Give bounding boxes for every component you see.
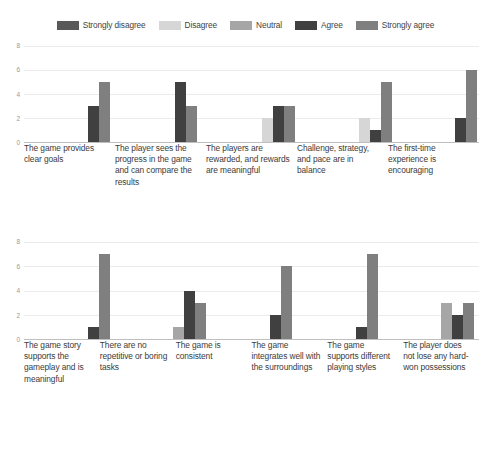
bar-group [111,46,198,142]
legend-item-label: Agree [321,20,343,30]
x-axis-category-label: The player sees the progress in the game… [115,143,206,188]
bar-group [206,242,292,339]
bar-group [24,46,111,142]
bar-groups [24,242,479,339]
bar-group [392,46,479,142]
bar[interactable] [370,130,381,142]
bar[interactable] [186,106,197,142]
y-axis-tick-label: 0 [16,140,20,147]
x-axis-category-label: The game story supports the gameplay and… [24,340,100,385]
chart-2-x-axis-labels: The game story supports the gameplay and… [2,340,479,385]
legend-item-disagree: Disagree [159,20,217,30]
bar-group [378,242,475,339]
legend-swatch-icon [159,21,181,30]
bar[interactable] [195,303,206,339]
x-axis-spacer [2,143,24,188]
bar-chart-1: 02468 The game provides clear goalsThe p… [0,46,491,242]
bar[interactable] [452,315,463,339]
x-axis-category-label: The game is consistent [176,340,252,385]
bar[interactable] [273,106,284,142]
y-axis-tick-label: 4 [16,288,20,295]
bar-group [198,46,295,142]
bar[interactable] [88,106,99,142]
legend-item-neutral: Neutral [230,20,282,30]
x-axis-category-label: The first-time experience is encouraging [388,143,479,188]
legend-item-agree: Agree [295,20,343,30]
bar[interactable] [455,118,466,142]
bar-group [24,242,110,339]
chart-1-plot-area: 02468 [2,46,479,143]
y-axis-tick-label: 8 [16,239,20,246]
bar[interactable] [184,291,195,340]
bar[interactable] [270,315,281,339]
legend-swatch-icon [57,21,79,30]
y-axis-tick-label: 2 [16,312,20,319]
legend-item-label: Strongly agree [382,20,435,30]
bar[interactable] [99,254,110,339]
chart-1-plot [24,46,479,143]
chart-1-y-axis: 02468 [2,46,24,143]
x-axis-category-label: The players are rewarded, and rewards ar… [206,143,297,188]
bar-groups [24,46,479,142]
bar-chart-2: 02468 The game story supports the gamepl… [0,242,491,442]
chart-2-plot-area: 02468 [2,242,479,340]
chart-2-x-labels-inner: The game story supports the gameplay and… [24,340,479,385]
bar[interactable] [441,303,452,339]
chart-2-y-axis: 02468 [2,242,24,340]
x-axis-spacer [2,340,24,385]
bar[interactable] [262,118,273,142]
x-axis-category-label: There are no repetitive or boring tasks [100,340,176,385]
bar[interactable] [88,327,99,339]
bar[interactable] [463,303,474,339]
legend-swatch-icon [230,21,252,30]
legend-item-label: Neutral [256,20,282,30]
y-axis-tick-label: 2 [16,116,20,123]
bar-group [474,242,491,339]
legend-swatch-icon [295,21,317,30]
legend-swatch-icon [356,21,378,30]
bar[interactable] [281,266,292,339]
bar[interactable] [367,254,378,339]
bar-group [292,242,378,339]
y-axis-tick-label: 0 [16,337,20,344]
bar[interactable] [381,82,392,142]
legend-item-label: Strongly disagree [83,20,146,30]
x-axis-category-label: The game supports different playing styl… [327,340,403,385]
bar[interactable] [466,70,477,142]
bar[interactable] [99,82,110,142]
bar[interactable] [175,82,186,142]
chart-1-x-labels-inner: The game provides clear goalsThe player … [24,143,479,188]
x-axis-category-label: The player does not lose any hard-won po… [403,340,479,385]
bar[interactable] [173,327,184,339]
legend-item-strongly-agree: Strongly agree [356,20,435,30]
y-axis-tick-label: 6 [16,67,20,74]
chart-2-plot [24,242,479,340]
y-axis-tick-label: 8 [16,43,20,50]
bar-group [110,242,207,339]
bar[interactable] [359,118,370,142]
y-axis-tick-label: 4 [16,91,20,98]
x-axis-category-label: The game provides clear goals [24,143,115,188]
x-axis-category-label: Challenge, strategy, and pace are in bal… [297,143,388,188]
bar[interactable] [284,106,295,142]
legend-item-strongly-disagree: Strongly disagree [57,20,146,30]
chart-1-x-axis-labels: The game provides clear goalsThe player … [2,143,479,188]
bar-group [295,46,392,142]
bar[interactable] [356,327,367,339]
y-axis-tick-label: 6 [16,263,20,270]
chart-legend: Strongly disagree Disagree Neutral Agree… [0,0,491,46]
x-axis-category-label: The game integrates well with the surrou… [251,340,327,385]
legend-item-label: Disagree [185,20,217,30]
